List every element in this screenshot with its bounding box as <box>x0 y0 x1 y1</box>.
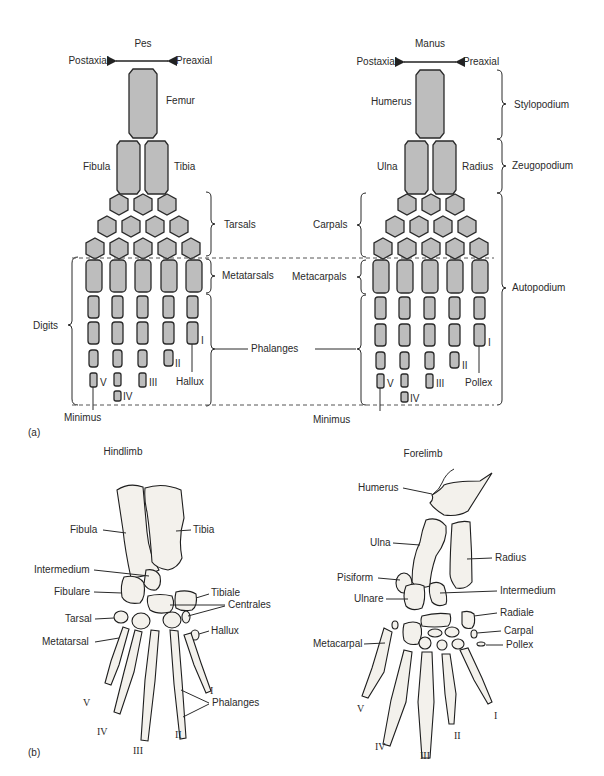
hl-tibiale-label: Tibiale <box>211 587 241 598</box>
phalanges-label: Phalanges <box>251 343 298 354</box>
fl-digit-i-drawing <box>460 648 492 704</box>
part-a-label: (a) <box>28 427 40 438</box>
distal-tarsal-drawing <box>132 613 150 629</box>
ulna-bone <box>405 141 428 194</box>
digits-brace <box>68 257 78 405</box>
tibia-label: Tibia <box>174 161 196 172</box>
limb-skeleton-figure: Pes Postaxial Preaxial Femur Fibula Tibi… <box>0 0 604 776</box>
fl-ulnare-label: Ulnare <box>354 593 384 604</box>
fl-pollex-label: Pollex <box>506 639 533 650</box>
tibiale-drawing <box>175 591 197 611</box>
hl-tarsal-leader <box>95 618 114 619</box>
pes-digit-iii: III <box>149 377 157 388</box>
intermedium-drawing <box>144 570 161 591</box>
tibia-bone <box>145 141 168 194</box>
manus-digit-iii: III <box>436 378 444 389</box>
fibula-label: Fibula <box>83 161 111 172</box>
hl-digit-ii: II <box>175 729 182 740</box>
hl-digit-v: V <box>83 697 91 708</box>
digits-label: Digits <box>33 320 58 331</box>
intermedium-fl-drawing <box>429 582 446 605</box>
manus-preaxial-label: Preaxial <box>463 56 499 67</box>
distal-carpal-3-drawing <box>445 627 459 637</box>
centrale-fl-drawing <box>421 613 451 627</box>
distal-tarsal-2-drawing <box>163 612 181 628</box>
radius-drawing <box>450 521 472 588</box>
fl-digit-iv-drawing <box>383 650 412 746</box>
hl-hallux-label: Hallux <box>211 625 239 636</box>
metacarpals-label: Metacarpals <box>292 271 346 282</box>
fl-digit-iv: IV <box>375 741 386 752</box>
metatarsal-bones <box>86 260 202 292</box>
hl-fibula-label: Fibula <box>70 524 98 535</box>
small-carpal-drawing <box>392 621 398 629</box>
pes-postaxial-label: Postaxial <box>68 55 109 66</box>
fl-intermedium-leader <box>440 591 497 593</box>
ulna-label: Ulna <box>377 161 398 172</box>
forelimb-drawing: Forelimb Humerus Ulna Radius Pisiform In… <box>313 448 556 761</box>
pes-minimus-label: Minimus <box>64 412 101 423</box>
fl-digit-ii-drawing <box>442 654 456 724</box>
femur-label: Femur <box>166 95 196 106</box>
tarsal-hexagons <box>86 194 200 259</box>
distal-carpal-c-drawing <box>452 639 464 649</box>
femur-bone <box>129 69 157 138</box>
manus-schematic: Manus Postaxial Preaxial Humerus Ulna Ra… <box>292 38 573 425</box>
carpal-hexagons <box>374 194 488 259</box>
distal-carpal-a-drawing <box>419 637 431 649</box>
fl-digit-v: V <box>357 703 365 714</box>
pes-digit-iv: IV <box>123 391 133 402</box>
humerus-bone <box>416 70 444 138</box>
hl-digit-iv: IV <box>97 726 108 737</box>
radiale-drawing <box>462 611 475 628</box>
distal-carpal-b-drawing <box>437 640 447 650</box>
hl-digit-iii: III <box>133 745 143 756</box>
hindlimb-title: Hindlimb <box>104 446 143 457</box>
hl-fibulare-leader <box>94 592 122 593</box>
zeugopodium-brace <box>497 139 506 193</box>
manus-digit-i: I <box>488 337 491 348</box>
digit-ii-drawing <box>170 630 186 739</box>
metatarsals-label: Metatarsals <box>222 270 274 281</box>
autopodium-brace <box>497 193 506 405</box>
hl-hallux-leader <box>199 631 209 634</box>
stylopodium-brace <box>497 70 506 139</box>
metatarsals-brace <box>206 259 215 293</box>
metacarpals-brace <box>357 260 366 294</box>
fl-radiale-label: Radiale <box>500 607 534 618</box>
tarsal-drawing <box>114 611 128 623</box>
hallux-label: Hallux <box>176 376 204 387</box>
humerus-drawing <box>430 473 492 516</box>
fl-digit-i: I <box>494 710 497 721</box>
fl-ulna-label: Ulna <box>370 537 391 548</box>
fl-digit-ii: II <box>454 730 461 741</box>
pes-digit-v: V <box>100 377 107 388</box>
manus-digit-v: V <box>387 378 394 389</box>
pes-preaxial-label: Preaxial <box>176 55 212 66</box>
radius-label: Radius <box>462 161 493 172</box>
manus-minimus-label: Minimus <box>313 414 350 425</box>
pollex-fl-drawing <box>477 642 485 646</box>
manus-digit-iv: IV <box>410 393 420 404</box>
fl-radiale-leader <box>474 613 497 616</box>
pes-schematic: Pes Postaxial Preaxial Femur Fibula Tibi… <box>33 38 274 423</box>
pes-title: Pes <box>134 38 151 49</box>
zeugopodium-label: Zeugopodium <box>512 160 573 171</box>
pollex-label: Pollex <box>465 377 492 388</box>
manus-digit-ii: II <box>462 360 468 371</box>
hl-tarsal-label: Tarsal <box>65 613 92 624</box>
carpal-fl-drawing <box>471 630 477 638</box>
digit-iii-drawing <box>141 630 159 741</box>
manus-phalanges-brace <box>357 295 366 405</box>
distal-carpal-4-drawing <box>428 629 442 637</box>
fl-digit-iii-drawing <box>418 652 434 758</box>
autopodium-label: Autopodium <box>512 282 565 293</box>
fl-carpal-label: Carpal <box>504 625 533 636</box>
fl-intermedium-label: Intermedium <box>500 585 556 596</box>
hl-fibulare-label: Fibulare <box>54 586 91 597</box>
digit-i-drawing <box>184 633 211 693</box>
pes-digit-i: I <box>201 335 204 346</box>
fibula-bone <box>117 141 140 194</box>
radius-bone <box>433 141 456 194</box>
hl-phalanges-leader-1 <box>181 690 209 703</box>
